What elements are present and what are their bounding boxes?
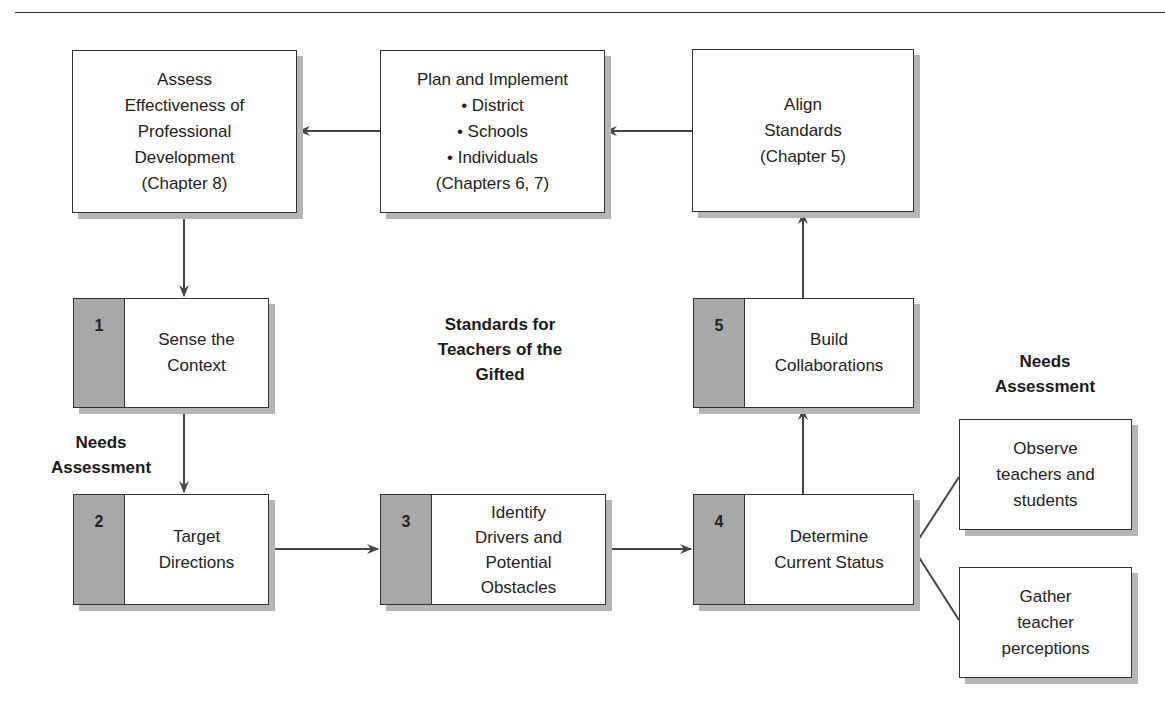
step-5-number: 5: [694, 299, 745, 407]
plan-implement-box: Plan and Implement • District • Schools …: [380, 50, 605, 213]
step-3-number: 3: [381, 495, 432, 604]
step-4-label: Determine Current Status: [745, 495, 913, 604]
top-rule: [15, 12, 1165, 13]
step-1-box: 1 Sense the Context: [73, 298, 269, 408]
step-2-box: 2 Target Directions: [73, 494, 269, 605]
gather-label: Gather teacher perceptions: [960, 568, 1131, 677]
step-2-number: 2: [74, 495, 125, 604]
step-5-box: 5 Build Collaborations: [693, 298, 914, 408]
step-3-box: 3 Identify Drivers and Potential Obstacl…: [380, 494, 606, 605]
assess-effectiveness-box: Assess Effectiveness of Professional Dev…: [72, 50, 297, 213]
step-5-label: Build Collaborations: [745, 299, 913, 407]
step-4-box: 4 Determine Current Status: [693, 494, 914, 605]
plan-implement-label: Plan and Implement • District • Schools …: [381, 51, 604, 212]
observe-label: Observe teachers and students: [960, 420, 1131, 529]
needs-assessment-right-heading: Needs Assessment: [980, 349, 1110, 399]
step-1-label: Sense the Context: [125, 299, 268, 407]
align-standards-label: Align Standards (Chapter 5): [693, 50, 913, 211]
step-3-label: Identify Drivers and Potential Obstacles: [432, 495, 605, 604]
step-1-number: 1: [74, 299, 125, 407]
gather-box: Gather teacher perceptions: [959, 567, 1132, 678]
align-standards-box: Align Standards (Chapter 5): [692, 49, 914, 212]
assess-effectiveness-label: Assess Effectiveness of Professional Dev…: [73, 51, 296, 212]
step-4-number: 4: [694, 495, 745, 604]
step-2-label: Target Directions: [125, 495, 268, 604]
center-heading: Standards for Teachers of the Gifted: [415, 312, 585, 387]
observe-box: Observe teachers and students: [959, 419, 1132, 530]
needs-assessment-left-heading: Needs Assessment: [36, 430, 166, 480]
